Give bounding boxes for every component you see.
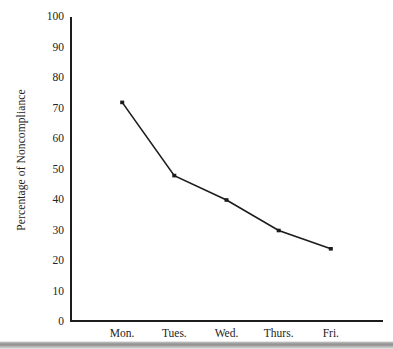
x-axis-tick-label: Thurs. <box>264 327 294 339</box>
data-point-marker <box>277 229 281 233</box>
data-series-line <box>0 0 393 349</box>
scan-artifact-band <box>0 341 393 349</box>
x-axis-tick-label: Mon. <box>110 327 135 339</box>
series-polyline <box>122 102 331 248</box>
x-axis-tick-label: Fri. <box>323 327 339 339</box>
x-axis-tick-label: Tues. <box>162 327 187 339</box>
data-point-marker <box>329 247 333 251</box>
data-point-marker <box>172 174 176 178</box>
series-markers <box>120 101 333 251</box>
data-point-marker <box>120 101 124 105</box>
x-axis-tick-label: Wed. <box>215 327 239 339</box>
data-point-marker <box>225 198 229 202</box>
chart-figure: Percentage of Noncompliance 010203040506… <box>0 0 393 349</box>
